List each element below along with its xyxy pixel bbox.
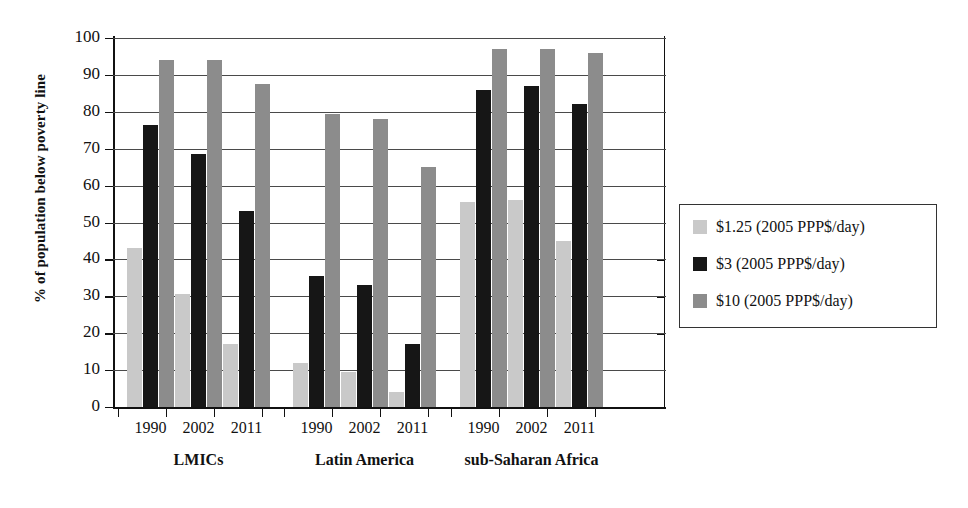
bar-sub-saharan-africa-1990-s1 — [460, 202, 475, 407]
y-tick-label-10: 10 — [56, 359, 100, 379]
x-label-sub-saharan-africa-2011: 2011 — [553, 419, 607, 437]
y-tick-90 — [105, 75, 113, 76]
x-tick — [595, 408, 596, 417]
bar-sub-saharan-africa-1990-s3 — [492, 49, 507, 407]
x-tick — [214, 408, 215, 417]
bar-lmics-1990-s2 — [143, 125, 158, 407]
gridline-100 — [113, 38, 666, 39]
bar-latin-america-2011-s1 — [389, 392, 404, 407]
plot-area — [113, 38, 666, 407]
y-tick-100 — [105, 38, 113, 39]
x-tick — [118, 408, 119, 417]
bar-lmics-2011-s1 — [223, 344, 238, 407]
x-label-latin-america-2011: 2011 — [386, 419, 440, 437]
x-label-latin-america-1990: 1990 — [290, 419, 344, 437]
y-tick-label-80: 80 — [56, 101, 100, 121]
y-tick-label-70: 70 — [56, 138, 100, 158]
x-tick — [166, 408, 167, 417]
bar-lmics-2011-s3 — [255, 84, 270, 407]
bar-lmics-1990-s1 — [127, 248, 142, 407]
legend-item-3: $3 (2005 PPP$/day) — [693, 255, 845, 273]
bar-latin-america-2002-s1 — [341, 372, 356, 407]
y-tick-40 — [105, 259, 113, 260]
bar-lmics-2002-s1 — [175, 294, 190, 407]
y-tick-30 — [105, 296, 113, 297]
y-tick-label-50: 50 — [56, 212, 100, 232]
x-label-lmics-2011: 2011 — [220, 419, 274, 437]
x-label-lmics-1990: 1990 — [124, 419, 178, 437]
bar-latin-america-2002-s3 — [373, 119, 388, 407]
bar-sub-saharan-africa-2011-s3 — [588, 53, 603, 407]
legend-item-125: $1.25 (2005 PPP$/day) — [693, 218, 865, 236]
x-label-latin-america-2002: 2002 — [338, 419, 392, 437]
legend-label-125: $1.25 (2005 PPP$/day) — [716, 218, 865, 236]
x-label-sub-saharan-africa-2002: 2002 — [505, 419, 559, 437]
legend-item-10: $10 (2005 PPP$/day) — [693, 292, 853, 310]
legend-swatch-125-icon — [693, 220, 707, 234]
x-tick — [332, 408, 333, 417]
bar-sub-saharan-africa-2002-s1 — [508, 200, 523, 407]
bar-sub-saharan-africa-2002-s3 — [540, 49, 555, 407]
y-tick-20 — [105, 333, 113, 334]
x-tick — [380, 408, 381, 417]
bar-latin-america-2011-s2 — [405, 344, 420, 407]
x-tick — [451, 408, 452, 417]
bar-lmics-2002-s2 — [191, 154, 206, 407]
y-tick-0 — [105, 407, 113, 408]
x-tick — [428, 408, 429, 417]
gridline-90 — [113, 75, 666, 76]
bar-sub-saharan-africa-2011-s1 — [556, 241, 571, 407]
y-tick-label-40: 40 — [56, 248, 100, 268]
y-tick-label-30: 30 — [56, 285, 100, 305]
x-tick — [284, 408, 285, 417]
y-axis-title: % of population below poverty line — [32, 9, 49, 369]
y-tick-label-60: 60 — [56, 175, 100, 195]
y-tick-label-0: 0 — [56, 396, 100, 416]
bar-latin-america-1990-s3 — [325, 114, 340, 407]
legend-label-3: $3 (2005 PPP$/day) — [716, 255, 845, 273]
bar-lmics-2002-s3 — [207, 60, 222, 407]
x-label-sub-saharan-africa-1990: 1990 — [457, 419, 511, 437]
bar-lmics-1990-s3 — [159, 60, 174, 407]
bar-sub-saharan-africa-1990-s2 — [476, 90, 491, 407]
x-tick — [499, 408, 500, 417]
bar-latin-america-2002-s2 — [357, 285, 372, 407]
y-tick-label-100: 100 — [56, 27, 100, 47]
y-tick-80 — [105, 112, 113, 113]
y-tick-label-90: 90 — [56, 64, 100, 84]
y-tick-label-20: 20 — [56, 322, 100, 342]
poverty-bar-chart-figure: % of population below poverty line 01020… — [0, 0, 968, 508]
chart-legend: $1.25 (2005 PPP$/day) $3 (2005 PPP$/day)… — [679, 204, 937, 328]
group-label-sub-saharan-africa: sub-Saharan Africa — [412, 451, 652, 469]
y-tick-70 — [105, 149, 113, 150]
x-tick — [262, 408, 263, 417]
legend-label-10: $10 (2005 PPP$/day) — [716, 292, 853, 310]
bar-latin-america-1990-s1 — [293, 363, 308, 407]
x-axis-line — [113, 407, 666, 409]
bar-sub-saharan-africa-2002-s2 — [524, 86, 539, 407]
bar-sub-saharan-africa-2011-s2 — [572, 104, 587, 407]
legend-swatch-3-icon — [693, 257, 707, 271]
x-label-lmics-2002: 2002 — [172, 419, 226, 437]
y-tick-10 — [105, 370, 113, 371]
bar-latin-america-2011-s3 — [421, 167, 436, 407]
legend-swatch-10-icon — [693, 294, 707, 308]
y-tick-50 — [105, 223, 113, 224]
x-tick — [547, 408, 548, 417]
y-tick-60 — [105, 186, 113, 187]
bar-latin-america-1990-s2 — [309, 276, 324, 407]
bar-lmics-2011-s2 — [239, 211, 254, 407]
